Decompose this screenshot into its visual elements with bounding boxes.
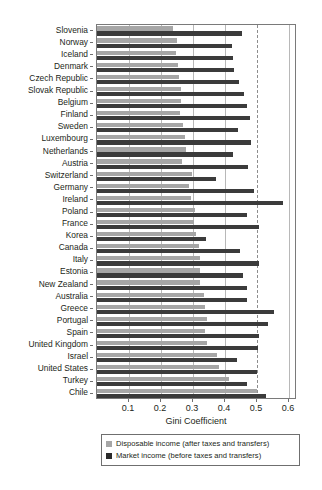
bar-market-income (97, 286, 247, 290)
bar-group (97, 243, 295, 255)
y-tick-mark (90, 42, 93, 43)
y-tick-mark (90, 224, 93, 225)
bar-market-income (97, 382, 247, 386)
bar-disposable-income (97, 184, 189, 188)
bar-group (97, 61, 295, 73)
bar-group (97, 315, 295, 327)
y-axis-label-finland: Finland (61, 110, 88, 119)
y-axis-label-denmark: Denmark (54, 62, 88, 71)
bar-group (97, 219, 295, 231)
bar-disposable-income (97, 365, 219, 369)
bar-disposable-income (97, 341, 207, 345)
bar-group (97, 194, 295, 206)
bar-market-income (97, 152, 233, 156)
bar-disposable-income (97, 99, 181, 103)
bar-disposable-income (97, 280, 200, 284)
bar-market-income (97, 189, 254, 193)
x-tick-label-0.1: 0.1 (122, 403, 135, 414)
x-tick-label-0.3: 0.3 (186, 403, 199, 414)
bar-disposable-income (97, 172, 192, 176)
bar-group (97, 327, 295, 339)
bar-disposable-income (97, 268, 200, 272)
bar-group (97, 352, 295, 364)
y-axis-label-iceland: Iceland (61, 50, 88, 59)
bar-group (97, 364, 295, 376)
y-tick-mark (90, 30, 93, 31)
bar-disposable-income (97, 353, 217, 357)
y-tick-mark (90, 175, 93, 176)
bar-group (97, 85, 295, 97)
bar-disposable-income (97, 293, 204, 297)
bar-group (97, 291, 295, 303)
y-axis-label-slovak-republic: Slovak Republic (28, 86, 88, 95)
bar-disposable-income (97, 377, 229, 381)
y-axis-label-netherlands: Netherlands (43, 147, 88, 156)
x-tick-label-0.2: 0.2 (154, 403, 167, 414)
bar-group (97, 146, 295, 158)
y-tick-mark (90, 369, 93, 370)
y-tick-mark (90, 345, 93, 346)
bar-group (97, 267, 295, 279)
bar-group (97, 73, 295, 85)
bar-market-income (97, 177, 216, 181)
bar-market-income (97, 31, 242, 35)
y-tick-mark (90, 381, 93, 382)
bar-group (97, 182, 295, 194)
bar-disposable-income (97, 220, 194, 224)
y-axis-label-belgium: Belgium (58, 98, 88, 107)
bar-market-income (97, 249, 240, 253)
chart-legend: Disposable income (after taxes and trans… (101, 434, 300, 466)
y-axis-label-united-states: United States (38, 364, 88, 373)
bar-group (97, 122, 295, 134)
bar-disposable-income (97, 111, 180, 115)
bar-market-income (97, 56, 233, 60)
y-tick-mark (90, 308, 93, 309)
bar-market-income (97, 334, 259, 338)
y-axis-label-italy: Italy (73, 255, 88, 264)
y-tick-mark (90, 236, 93, 237)
y-tick-mark (90, 115, 93, 116)
y-tick-mark (90, 320, 93, 321)
legend-label-market-income: Market income (before taxes and transfer… (116, 451, 261, 460)
bar-market-income (97, 68, 234, 72)
bar-group (97, 110, 295, 122)
bar-group (97, 170, 295, 182)
y-tick-mark (90, 151, 93, 152)
x-tick-mark-0.1 (128, 399, 129, 402)
y-tick-mark (90, 284, 93, 285)
y-axis-label-ireland: Ireland (62, 195, 88, 204)
y-axis-label-austria: Austria (62, 159, 88, 168)
y-axis-label-korea: Korea (66, 231, 88, 240)
bar-group (97, 231, 295, 243)
bar-disposable-income (97, 75, 179, 79)
plot-area (96, 24, 296, 399)
bar-group (97, 134, 295, 146)
x-tick-mark-0.5 (256, 399, 257, 402)
y-axis-label-greece: Greece (61, 304, 88, 313)
legend-label-disposable-income: Disposable income (after taxes and trans… (116, 439, 269, 448)
x-axis-ticks: 0.10.20.30.40.50.6 (96, 399, 296, 415)
bar-market-income (97, 140, 251, 144)
bar-market-income (97, 165, 248, 169)
bar-disposable-income (97, 38, 177, 42)
bar-disposable-income (97, 317, 207, 321)
bar-disposable-income (97, 329, 205, 333)
x-tick-label-0.4: 0.4 (218, 403, 231, 414)
legend-item-market-income: Market income (before taxes and transfer… (106, 450, 295, 461)
bar-market-income (97, 358, 237, 362)
y-tick-mark (90, 139, 93, 140)
bar-disposable-income (97, 389, 257, 393)
bar-group (97, 376, 295, 388)
bar-disposable-income (97, 63, 178, 67)
y-axis-labels: SloveniaNorwayIcelandDenmarkCzech Republ… (0, 24, 93, 399)
bar-market-income (97, 80, 239, 84)
y-tick-mark (90, 54, 93, 55)
x-tick-mark-0.6 (288, 399, 289, 402)
y-axis-label-united-kingdom: United Kingdom (28, 340, 88, 349)
y-axis-label-australia: Australia (55, 292, 88, 301)
bar-market-income (97, 92, 244, 96)
y-axis-label-new-zealand: New Zealand (39, 280, 88, 289)
bar-market-income (97, 394, 266, 398)
bar-market-income (97, 225, 259, 229)
bar-disposable-income (97, 305, 205, 309)
